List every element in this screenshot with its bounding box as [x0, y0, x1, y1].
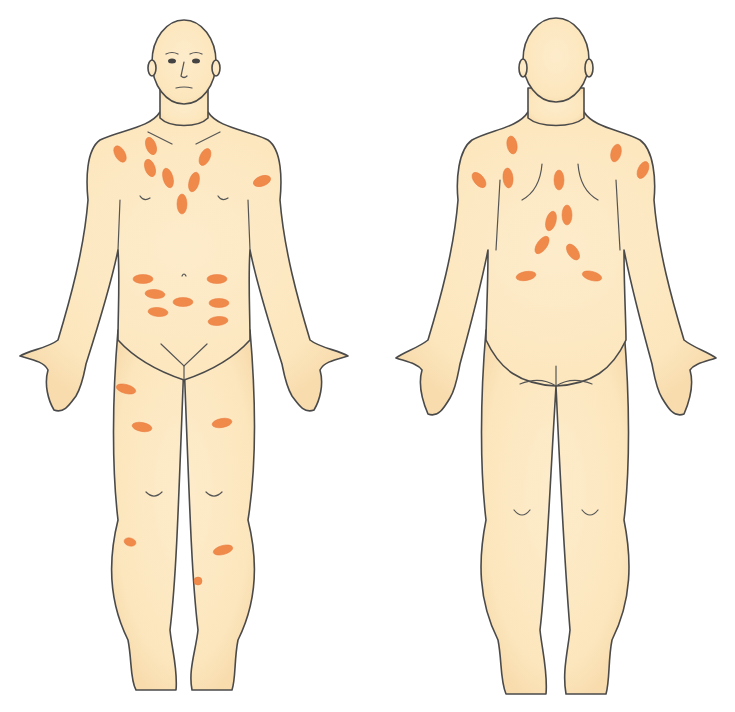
- front-ear-right: [212, 60, 220, 76]
- lesion-marker: [133, 275, 153, 284]
- back-ear-right: [585, 59, 593, 77]
- lesion-marker: [207, 275, 227, 284]
- lesion-marker: [562, 205, 572, 225]
- lesion-marker: [209, 299, 229, 308]
- front-view-figure: [20, 20, 348, 690]
- lesion-marker: [554, 170, 564, 190]
- lesion-marker: [177, 194, 187, 214]
- diagram-canvas: [0, 0, 735, 712]
- front-legs: [111, 330, 254, 690]
- lesion-marker: [194, 577, 202, 585]
- body-lesion-diagram: [0, 0, 735, 712]
- back-ear-left: [519, 59, 527, 77]
- back-head: [523, 18, 589, 102]
- back-view-figure: [396, 18, 716, 694]
- front-ear-left: [148, 60, 156, 76]
- lesion-marker: [173, 298, 193, 307]
